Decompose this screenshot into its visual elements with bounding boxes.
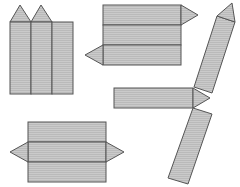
- net-c-rect-bottom: [168, 108, 212, 184]
- prism-nets-diagram: [0, 0, 240, 187]
- net-b-rect-3: [103, 45, 181, 65]
- net-b-rect-1: [103, 5, 181, 25]
- net-b-rect-2: [103, 25, 181, 45]
- net-c-rect-middle: [114, 88, 193, 108]
- net-c-rect-top: [194, 16, 235, 93]
- net-a-rect-3: [52, 22, 73, 94]
- net-a-triangle-2: [31, 5, 52, 22]
- net-a-rect-2: [31, 22, 52, 94]
- net-a-triangle-1: [10, 5, 31, 22]
- net-d-rect-1: [28, 122, 106, 142]
- net-b-triangle-left: [85, 45, 103, 65]
- net-d-triangle-right: [106, 142, 124, 162]
- net-b-triangle-right: [181, 5, 198, 25]
- net-a-rect-1: [10, 22, 31, 94]
- net-b: [85, 5, 198, 65]
- net-d: [10, 122, 124, 182]
- net-d-rect-2: [28, 142, 106, 162]
- net-d-rect-3: [28, 162, 106, 182]
- net-a: [10, 5, 73, 94]
- net-d-triangle-left: [10, 142, 28, 162]
